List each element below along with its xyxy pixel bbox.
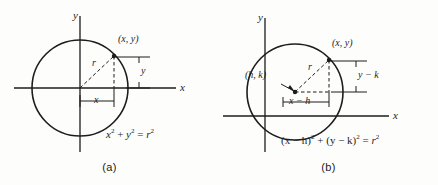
radius-dashed-line — [80, 56, 114, 88]
center-leader-arrowhead — [288, 85, 295, 92]
panel-b-drawing — [219, 0, 438, 185]
panel-b-caption: (b) — [219, 161, 438, 173]
vertical-dim-label: y − k — [358, 70, 379, 80]
equation-label: (x − h)2 + (y − k)2 = r2 — [281, 134, 379, 146]
equation-term-1: (x − h) — [281, 134, 311, 146]
equation-term-4: = — [135, 128, 147, 140]
equation-label: x2 + y2 = r2 — [106, 128, 154, 140]
circle-equation-figure: y x (x, y) r y x x2 + y2 = r2 (a) — [0, 0, 438, 185]
x-axis-label: x — [393, 110, 398, 121]
x-axis-label: x — [180, 82, 185, 93]
panel-a-caption: (a) — [0, 161, 219, 173]
radius-dashed-line — [295, 60, 329, 92]
y-axis-label: y — [73, 10, 78, 21]
radius-label: r — [92, 58, 96, 68]
point-marker — [112, 54, 116, 58]
equation-term-2: + — [315, 134, 327, 146]
horizontal-dim-label: x — [94, 95, 98, 105]
panel-a-drawing — [0, 0, 219, 185]
horizontal-dim-label: x − h — [289, 96, 310, 106]
equation-term-4: = — [360, 134, 372, 146]
center-label: (h, k) — [245, 70, 266, 80]
point-label: (x, y) — [332, 38, 353, 48]
radius-label: r — [308, 62, 312, 72]
equation-term-2: + — [114, 128, 126, 140]
point-marker — [327, 58, 331, 62]
equation-sup-5: 2 — [151, 127, 155, 135]
vertical-dim-label: y — [141, 66, 145, 76]
panel-b: y x (x, y) (h, k) r y − k x − h (x − h)2… — [219, 0, 438, 185]
point-label: (x, y) — [118, 34, 139, 44]
equation-sup-5: 2 — [376, 133, 380, 141]
y-axis-label: y — [258, 12, 263, 23]
equation-term-3: (y − k) — [326, 134, 356, 146]
panel-a: y x (x, y) r y x x2 + y2 = r2 (a) — [0, 0, 219, 185]
